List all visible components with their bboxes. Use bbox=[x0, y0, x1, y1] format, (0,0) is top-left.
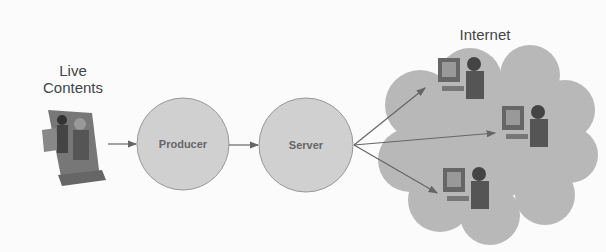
server-label: Server bbox=[289, 139, 324, 151]
producer-label: Producer bbox=[159, 138, 208, 150]
producer-node[interactable]: Producer bbox=[137, 98, 229, 190]
diagram-canvas: Producer Server bbox=[0, 0, 606, 252]
server-node[interactable]: Server bbox=[259, 98, 353, 192]
video-camera-people-icon bbox=[42, 110, 106, 186]
internet-cloud bbox=[378, 45, 598, 245]
